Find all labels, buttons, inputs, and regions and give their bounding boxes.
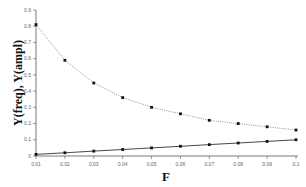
series-line (36, 25, 296, 130)
axes: 00.10.20.30.40.50.60.70.80.90.010.020.03… (24, 7, 300, 167)
data-point-marker (179, 112, 182, 115)
data-point-marker (237, 142, 240, 145)
x-tick-label: 0.06 (176, 161, 186, 167)
x-tick-label: 0.05 (147, 161, 157, 167)
data-point-marker (35, 153, 38, 156)
x-tick-label: 0.04 (118, 161, 128, 167)
series-line (36, 140, 296, 155)
data-point-marker (92, 150, 95, 153)
y-tick-label: 0.8 (24, 23, 31, 29)
y-axis-label: Y(freq), Y(ampl) (11, 40, 25, 126)
x-tick-label: 0.09 (262, 161, 272, 167)
y-tick-label: 0.6 (24, 55, 31, 61)
x-tick-label: 0.08 (233, 161, 243, 167)
y-tick-label: 0.2 (24, 120, 31, 126)
y-tick-label: 0.7 (24, 39, 31, 45)
data-point-marker (121, 96, 124, 99)
data-point-marker (150, 106, 153, 109)
data-point-marker (208, 143, 211, 146)
data-point-marker (35, 23, 38, 26)
data-point-marker (295, 129, 298, 132)
data-point-marker (63, 59, 66, 62)
data-point-marker (208, 119, 211, 122)
line-chart: 00.10.20.30.40.50.60.70.80.90.010.020.03… (0, 0, 306, 187)
series-group (35, 23, 298, 156)
y-tick-label: 0.5 (24, 72, 31, 78)
y-tick-label: 0.3 (24, 104, 31, 110)
x-axis-label: F (162, 169, 170, 184)
data-point-marker (237, 122, 240, 125)
y-tick-label: 0.1 (24, 136, 31, 142)
x-tick-label: 0.1 (293, 161, 300, 167)
data-point-marker (92, 82, 95, 85)
x-tick-label: 0.01 (31, 161, 41, 167)
x-tick-label: 0.07 (204, 161, 214, 167)
data-point-marker (266, 140, 269, 143)
data-point-marker (295, 138, 298, 141)
data-point-marker (63, 151, 66, 154)
data-point-marker (121, 148, 124, 151)
x-tick-label: 0.03 (89, 161, 99, 167)
y-tick-label: 0.4 (24, 88, 31, 94)
y-tick-label: 0 (28, 153, 31, 159)
y-tick-label: 0.9 (24, 7, 31, 13)
data-point-marker (179, 145, 182, 148)
data-point-marker (150, 146, 153, 149)
x-tick-label: 0.02 (60, 161, 70, 167)
data-point-marker (266, 125, 269, 128)
